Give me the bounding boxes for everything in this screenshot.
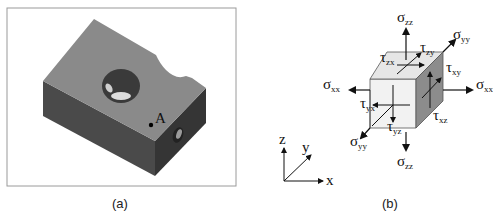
- tau-xz-label: τxz: [433, 107, 448, 125]
- sigma-zz-top-label: σzz: [397, 9, 413, 27]
- sigma-xx-left-label: σxx: [323, 76, 341, 94]
- axis-z-label: z: [279, 131, 286, 147]
- tau-xy-label: τxy: [446, 59, 462, 77]
- sigma-xx-right-label: σxx: [476, 76, 493, 94]
- axis-y-label: y: [302, 139, 310, 155]
- point-a-label: A: [155, 110, 166, 126]
- coordinate-axes: z y x: [279, 131, 334, 188]
- point-a-marker: [149, 123, 153, 127]
- panel-b-caption: (b): [382, 196, 398, 211]
- tau-zy-label: τzy: [420, 39, 435, 57]
- panel-a: A (a): [7, 8, 236, 211]
- panel-b: z y x σz: [279, 9, 493, 211]
- axis-x-label: x: [326, 172, 334, 188]
- sigma-yy-front-label: σyy: [350, 133, 368, 151]
- panel-a-caption: (a): [112, 196, 128, 211]
- figure-canvas: A (a) z y x: [0, 0, 493, 218]
- sigma-yy-back-label: σyy: [453, 26, 471, 44]
- sigma-zz-bottom-label: σzz: [397, 153, 413, 171]
